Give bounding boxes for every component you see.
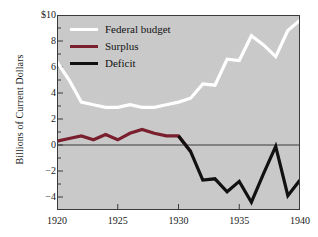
x-tick-label: 1940 [290, 216, 310, 226]
x-tick-label: 1935 [229, 216, 249, 226]
legend-entry: Deficit [70, 56, 171, 70]
legend-swatch-icon [70, 28, 98, 31]
chart-legend: Federal budgetSurplusDeficit [70, 22, 171, 70]
legend-label: Surplus [105, 40, 139, 52]
legend-label: Deficit [105, 57, 136, 69]
x-tick-label: 1930 [169, 216, 189, 226]
legend-entry: Surplus [70, 39, 171, 53]
legend-swatch-icon [70, 62, 98, 65]
chart-figure: Billions of Current Dollars −4−202468$10… [0, 0, 318, 237]
legend-entry: Federal budget [70, 22, 171, 36]
legend-label: Federal budget [105, 23, 171, 35]
x-tick-label: 1920 [47, 216, 67, 226]
legend-swatch-icon [70, 45, 98, 48]
x-tick-label: 1925 [108, 216, 128, 226]
